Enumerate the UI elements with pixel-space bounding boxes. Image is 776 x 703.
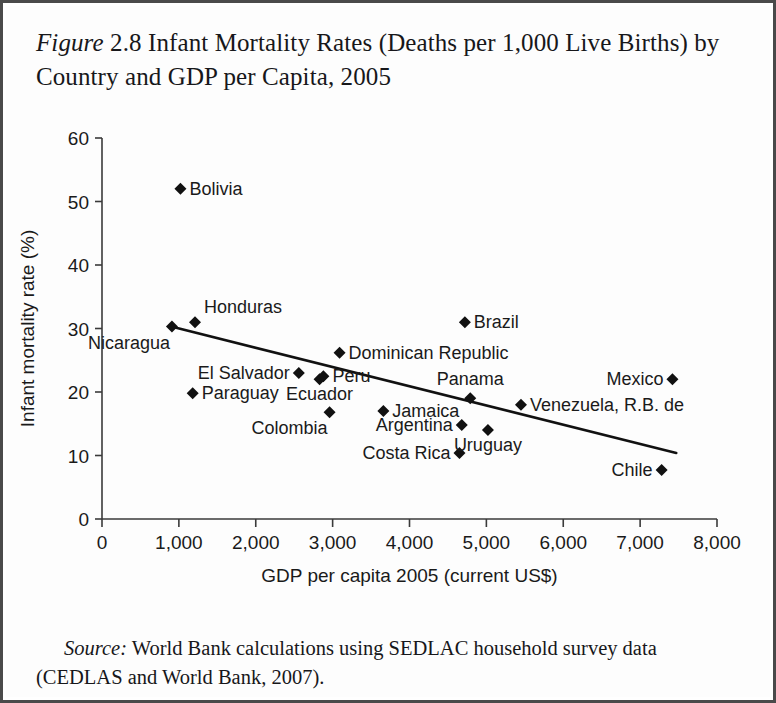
source-note: Source: World Bank calculations using SE… bbox=[36, 634, 748, 692]
x-tick-label: 1,000 bbox=[155, 532, 203, 553]
x-tick-label: 4,000 bbox=[386, 532, 434, 553]
data-point[interactable]: El Salvador bbox=[198, 363, 305, 383]
point-label-chile: Chile bbox=[612, 460, 653, 480]
point-marker-honduras bbox=[189, 316, 201, 328]
y-tick-label: 30 bbox=[68, 319, 89, 340]
point-marker-venezuela-r-b-de bbox=[515, 399, 527, 411]
data-point[interactable]: Dominican Republic bbox=[334, 343, 509, 363]
source-label: Source: bbox=[64, 637, 127, 659]
data-point[interactable]: Uruguay bbox=[454, 424, 522, 455]
point-label-peru: Peru bbox=[332, 366, 370, 386]
point-label-paraguay: Paraguay bbox=[202, 383, 279, 403]
point-marker-chile bbox=[656, 464, 668, 476]
data-point[interactable]: Venezuela, R.B. de bbox=[515, 395, 684, 415]
y-tick-label: 60 bbox=[68, 128, 89, 149]
data-point[interactable]: Paraguay bbox=[187, 383, 279, 403]
source-indent bbox=[36, 637, 64, 659]
data-point[interactable]: Colombia bbox=[252, 406, 336, 438]
data-point[interactable]: Brazil bbox=[459, 312, 519, 332]
figure-page: Figure 2.8 Infant Mortality Rates (Death… bbox=[0, 0, 776, 703]
source-line-2: (CEDLAS and World Bank, 2007). bbox=[36, 666, 324, 688]
point-marker-colombia bbox=[324, 406, 336, 418]
figure-caption: Figure 2.8 Infant Mortality Rates (Death… bbox=[36, 26, 736, 94]
x-tick-label: 0 bbox=[97, 532, 108, 553]
data-point[interactable]: Bolivia bbox=[174, 179, 243, 199]
point-marker-bolivia bbox=[174, 183, 186, 195]
x-tick-label: 5,000 bbox=[463, 532, 511, 553]
figure-label: Figure bbox=[36, 29, 104, 56]
data-point[interactable]: Mexico bbox=[606, 369, 678, 389]
point-label-mexico: Mexico bbox=[606, 369, 663, 389]
data-point[interactable]: Peru bbox=[317, 366, 370, 386]
y-tick-label: 0 bbox=[78, 509, 89, 530]
figure-number: 2.8 bbox=[110, 29, 142, 56]
point-label-ecuador: Ecuador bbox=[286, 384, 353, 404]
scatter-chart: 010203040506001,0002,0003,0004,0005,0006… bbox=[0, 110, 764, 600]
point-marker-dominican-republic bbox=[334, 347, 346, 359]
point-label-dominican-republic: Dominican Republic bbox=[349, 343, 509, 363]
data-point[interactable]: Costa Rica bbox=[362, 443, 465, 463]
y-tick-label: 10 bbox=[68, 446, 89, 467]
point-label-argentina: Argentina bbox=[376, 415, 454, 435]
point-label-brazil: Brazil bbox=[474, 312, 519, 332]
x-tick-label: 7,000 bbox=[616, 532, 664, 553]
point-label-uruguay: Uruguay bbox=[454, 435, 522, 455]
point-marker-brazil bbox=[459, 316, 471, 328]
point-marker-mexico bbox=[666, 373, 678, 385]
point-label-panama: Panama bbox=[437, 369, 505, 389]
chart-canvas: 010203040506001,0002,0003,0004,0005,0006… bbox=[0, 110, 764, 600]
point-marker-paraguay bbox=[187, 387, 199, 399]
point-marker-nicaragua bbox=[166, 321, 178, 333]
x-tick-label: 2,000 bbox=[232, 532, 280, 553]
source-line-1: World Bank calculations using SEDLAC hou… bbox=[132, 637, 657, 659]
data-point[interactable]: Honduras bbox=[189, 297, 282, 328]
point-label-bolivia: Bolivia bbox=[189, 179, 243, 199]
data-point[interactable]: Chile bbox=[612, 460, 668, 480]
x-tick-label: 3,000 bbox=[309, 532, 357, 553]
y-tick-label: 40 bbox=[68, 255, 89, 276]
point-label-costa-rica: Costa Rica bbox=[362, 443, 451, 463]
x-axis-title: GDP per capita 2005 (current US$) bbox=[261, 565, 557, 586]
point-marker-el-salvador bbox=[293, 367, 305, 379]
y-axis-title: Infant mortality rate (%) bbox=[17, 230, 38, 427]
y-tick-label: 50 bbox=[68, 192, 89, 213]
point-label-nicaragua: Nicaragua bbox=[88, 333, 171, 353]
x-tick-label: 8,000 bbox=[693, 532, 741, 553]
point-label-venezuela-r-b-de: Venezuela, R.B. de bbox=[530, 395, 684, 415]
point-label-colombia: Colombia bbox=[252, 418, 329, 438]
point-label-honduras: Honduras bbox=[204, 297, 282, 317]
point-label-el-salvador: El Salvador bbox=[198, 363, 290, 383]
y-tick-label: 20 bbox=[68, 382, 89, 403]
x-tick-label: 6,000 bbox=[539, 532, 587, 553]
data-point[interactable]: Panama bbox=[437, 369, 505, 404]
